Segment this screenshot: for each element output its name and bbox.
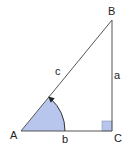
side-label-a: a (114, 69, 121, 81)
angle-a-sector (21, 97, 65, 131)
right-angle-marker (102, 121, 112, 131)
vertex-label-a: A (10, 129, 18, 141)
vertex-label-c: C (114, 132, 122, 144)
side-label-b: b (62, 133, 68, 145)
vertex-label-b: B (108, 5, 115, 17)
side-c (21, 20, 112, 131)
side-label-c: c (55, 65, 61, 77)
right-triangle-diagram: B A C c a b (0, 0, 130, 152)
